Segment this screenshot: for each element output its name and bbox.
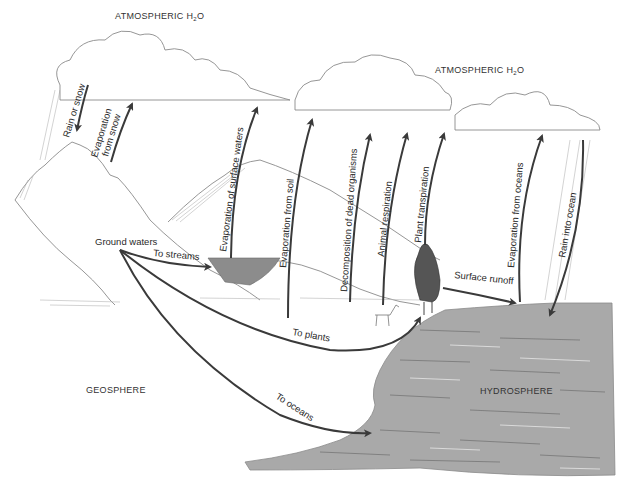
- mid-mountain: [168, 160, 440, 260]
- atmospheric-label-right: ATMOSPHERIC H2O: [435, 65, 524, 76]
- horse-icon: [375, 305, 399, 326]
- atmospheric-label-left: ATMOSPHERIC H2O: [115, 11, 204, 22]
- water-cycle-diagram: ATMOSPHERIC H2O ATMOSPHERIC H2O Rain or …: [0, 0, 619, 485]
- left-mountain-ridge: [15, 200, 115, 305]
- label-ground-waters: Ground waters: [95, 236, 158, 247]
- ground-hatching: [40, 298, 420, 306]
- cloud-center: [295, 55, 452, 110]
- tree-icon: [414, 244, 440, 302]
- label-to-oceans: To oceans: [274, 390, 317, 423]
- arrow-evap-oceans: [519, 136, 542, 302]
- lake: [208, 258, 280, 285]
- cloud-left: [57, 31, 290, 100]
- label-animal-resp: Animal respiration: [375, 180, 394, 257]
- cloud-right: [455, 92, 600, 130]
- hydrosphere-label: HYDROSPHERE: [480, 386, 553, 396]
- arrow-surface-runoff: [443, 288, 515, 303]
- label-to-plants: To plants: [292, 326, 332, 343]
- geosphere-label: GEOSPHERE: [86, 385, 146, 395]
- label-rain-ocean: Rain into ocean: [556, 191, 578, 258]
- label-surface-runoff: Surface runoff: [454, 269, 515, 286]
- label-to-streams: To streams: [153, 247, 200, 262]
